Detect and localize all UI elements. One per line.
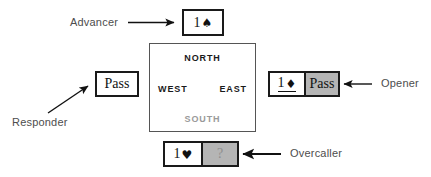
bid-box-responder[interactable]: Pass (95, 71, 139, 97)
bid-cell-overcaller-question[interactable]: ? (201, 143, 237, 165)
bid-level: 1 (174, 147, 181, 161)
label-advancer: Advancer (70, 17, 118, 28)
bidding-diagram: Advancer Responder Opener Overcaller NOR… (0, 0, 431, 177)
label-overcaller: Overcaller (290, 148, 342, 159)
label-opener: Opener (381, 78, 419, 89)
bid-cell-overcaller-1h[interactable]: 1♥ (165, 143, 201, 165)
bid-box-advancer[interactable]: 1♠ (182, 9, 224, 36)
bid-box-overcaller[interactable]: 1♥ ? (163, 141, 239, 167)
compass-label-west: WEST (158, 85, 188, 94)
compass-label-north: NORTH (184, 54, 221, 63)
bid-cell-responder-pass[interactable]: Pass (97, 73, 137, 95)
heart-icon: ♥ (182, 149, 193, 161)
diamond-icon: ♦ (286, 77, 297, 91)
bid-box-opener[interactable]: 1♦ Pass (268, 71, 340, 97)
responder-arrow (48, 86, 88, 113)
bid-cell-advancer-1s[interactable]: 1♠ (184, 11, 222, 34)
label-responder: Responder (12, 117, 68, 128)
spade-icon: ♠ (202, 17, 213, 29)
compass-label-south: SOUTH (185, 115, 221, 124)
bid-cell-opener-1d[interactable]: 1♦ (270, 73, 304, 95)
bid-level: 1 (194, 16, 201, 30)
compass-table: NORTH WEST EAST SOUTH (149, 43, 256, 132)
compass-label-east: EAST (219, 85, 247, 94)
bid-cell-opener-pass[interactable]: Pass (304, 73, 338, 95)
bid-level: 1 (278, 75, 285, 90)
